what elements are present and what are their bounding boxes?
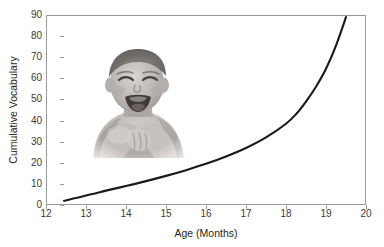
- x-tick-label-14: 14: [113, 209, 139, 219]
- x-tick-mark: [126, 205, 127, 209]
- x-tick-label-20: 20: [353, 209, 379, 219]
- x-tick-label-19: 19: [313, 209, 339, 219]
- x-tick-label-15: 15: [153, 209, 179, 219]
- x-tick-mark: [86, 205, 87, 209]
- x-tick-label-13: 13: [73, 209, 99, 219]
- x-tick-mark: [166, 205, 167, 209]
- x-tick-mark: [326, 205, 327, 209]
- x-tick-mark: [286, 205, 287, 209]
- baby-photo: [85, 45, 191, 158]
- baby-photo-illustration: [85, 45, 191, 158]
- x-tick-mark: [46, 205, 47, 209]
- x-tick-label-17: 17: [233, 209, 259, 219]
- x-tick-mark: [366, 205, 367, 209]
- x-tick-mark: [246, 205, 247, 209]
- vocabulary-growth-chart: Cumulative Vocabulary Age (Months) 01020…: [0, 0, 384, 247]
- x-tick-label-18: 18: [273, 209, 299, 219]
- x-tick-label-12: 12: [33, 209, 59, 219]
- x-tick-mark: [206, 205, 207, 209]
- x-tick-label-16: 16: [193, 209, 219, 219]
